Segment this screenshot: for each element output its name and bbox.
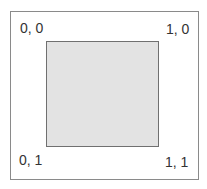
label-top-left: 0, 0 — [20, 21, 43, 35]
label-bottom-left: 0, 1 — [19, 153, 42, 167]
inner-square — [46, 41, 159, 147]
label-top-right: 1, 0 — [166, 22, 189, 36]
label-bottom-right: 1, 1 — [165, 155, 188, 169]
